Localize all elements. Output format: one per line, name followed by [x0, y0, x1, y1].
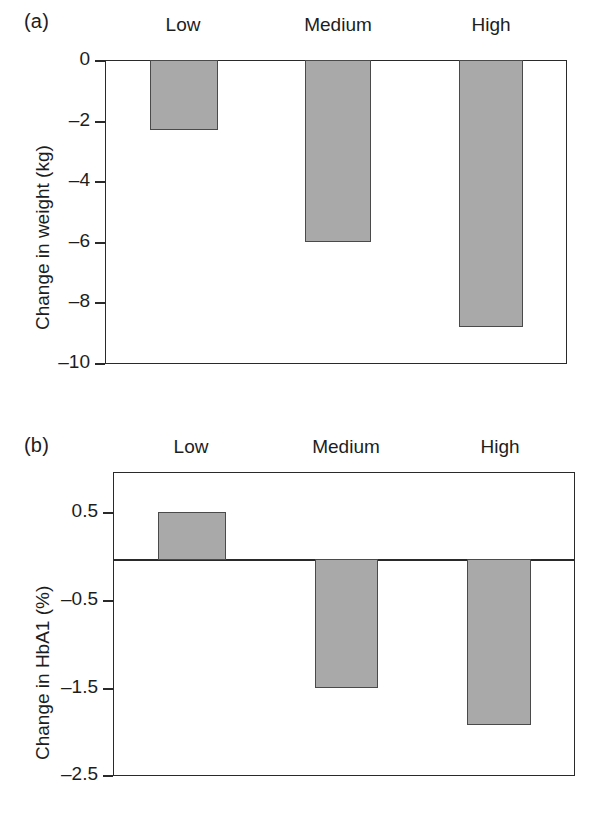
- panel-b-tick-m05: [103, 600, 113, 602]
- panel-b: (b) Low Medium High Change in HbA1 (%) 0…: [0, 420, 597, 813]
- panel-a-tick-m10: [95, 363, 105, 365]
- panel-a-tick-0: [95, 60, 105, 62]
- panel-a-tick-label-m8: –8: [20, 290, 90, 312]
- panel-b-category-label-medium: Medium: [296, 436, 396, 458]
- panel-a-category-label-low: Low: [133, 14, 233, 36]
- panel-a-tick-label-m4: –4: [20, 169, 90, 191]
- panel-a-tick-m6: [95, 242, 105, 244]
- panel-a-tick-label-m6: –6: [20, 230, 90, 252]
- panel-b-bar-medium[interactable]: [315, 559, 378, 688]
- panel-b-tick-m25: [103, 775, 113, 777]
- panel-b-bar-high[interactable]: [467, 559, 531, 725]
- panel-b-y-axis-title: Change in HbA1 (%): [32, 586, 54, 760]
- panel-b-tick-p05: [103, 512, 113, 514]
- panel-b-tick-label-p05: 0.5: [20, 500, 98, 522]
- panel-b-tick-m15: [103, 688, 113, 690]
- panel-b-bar-low[interactable]: [158, 512, 226, 560]
- panel-a-letter: (a): [24, 10, 49, 33]
- panel-a-tick-label-0: 0: [20, 48, 90, 70]
- panel-a-bar-high[interactable]: [459, 60, 523, 327]
- panel-b-category-label-low: Low: [141, 436, 241, 458]
- panel-a-bar-medium[interactable]: [305, 60, 371, 242]
- panel-b-tick-label-m25: –2.5: [12, 763, 98, 785]
- panel-a-bar-low[interactable]: [150, 60, 218, 130]
- panel-a-tick-m4: [95, 181, 105, 183]
- panel-a-tick-label-m2: –2: [20, 109, 90, 131]
- panel-b-tick-label-m05: –0.5: [12, 588, 98, 610]
- panel-b-letter: (b): [24, 434, 49, 457]
- panel-a-tick-label-m10: –10: [12, 351, 90, 373]
- panel-b-category-label-high: High: [450, 436, 550, 458]
- panel-a: (a) Low Medium High Change in weight (kg…: [0, 0, 597, 420]
- panel-b-tick-label-m15: –1.5: [12, 676, 98, 698]
- panel-a-tick-m2: [95, 121, 105, 123]
- panel-a-category-label-medium: Medium: [288, 14, 388, 36]
- panel-a-category-label-high: High: [441, 14, 541, 36]
- panel-a-tick-m8: [95, 302, 105, 304]
